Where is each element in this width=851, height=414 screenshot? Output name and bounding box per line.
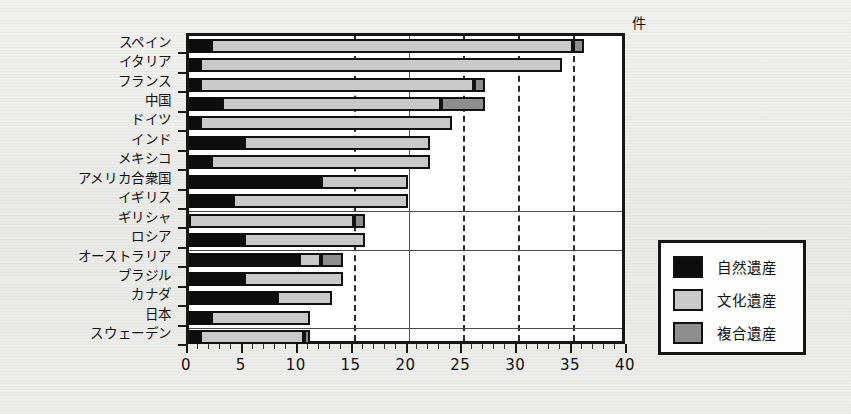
world-heritage-bar-chart: スペインイタリアフランス中国ドイツインドメキシコアメリカ合衆国イギリスギリシャロ…: [0, 0, 851, 414]
plot-inner: [189, 36, 622, 341]
bar-row: [189, 311, 622, 325]
bar-segment-nat: [189, 175, 321, 189]
x-axis-unit-label: 件: [632, 12, 646, 32]
bar-segment-cul: [211, 155, 431, 169]
x-axis-tick-minor: [395, 344, 396, 349]
bar-segment-nat: [189, 291, 277, 305]
bar-row: [189, 194, 622, 208]
bar-segment-cul: [200, 330, 304, 344]
x-axis-tick-label: 5: [236, 356, 246, 374]
x-axis-tick-minor: [219, 344, 220, 349]
x-axis-tick-minor: [482, 344, 483, 349]
legend-item[interactable]: 複合遺産: [661, 316, 803, 349]
y-axis-tick: [178, 344, 186, 346]
x-axis-tick-minor: [230, 344, 231, 349]
x-axis-tick-minor: [493, 344, 494, 349]
y-axis-label: 中国: [145, 94, 172, 108]
x-axis-tick-minor: [471, 344, 472, 349]
x-axis-tick-major: [570, 344, 572, 353]
bar-row: [189, 58, 622, 72]
y-axis-tick: [178, 150, 186, 152]
row-separator: [189, 328, 622, 329]
bar-segment-nat: [189, 311, 211, 325]
bar-segment-cul: [299, 253, 321, 267]
bar-segment-cul: [277, 291, 332, 305]
x-axis-tick-label: 30: [505, 356, 525, 374]
y-axis-tick: [178, 208, 186, 210]
x-axis-tick-major: [186, 344, 188, 353]
x-axis-tick-minor: [373, 344, 374, 349]
legend-label: 複合遺産: [717, 322, 777, 343]
legend-swatch-mix: [673, 322, 703, 344]
y-axis-label: インド: [131, 133, 172, 147]
bar-segment-mix: [304, 330, 309, 344]
y-axis-label: イタリア: [119, 55, 172, 69]
x-axis-tick-minor: [449, 344, 450, 349]
x-axis-tick-minor: [559, 344, 560, 349]
y-axis-label: ブラジル: [118, 269, 172, 283]
bar-segment-cul: [189, 214, 354, 228]
bar-row: [189, 39, 622, 53]
x-axis-tick-label: 15: [341, 356, 361, 374]
bar-row: [189, 97, 622, 111]
bar-row: [189, 291, 622, 305]
legend-item[interactable]: 自然遺産: [661, 250, 803, 283]
bar-segment-cul: [244, 233, 365, 247]
x-axis-tick-label: 35: [560, 356, 580, 374]
bar-segment-cul: [222, 97, 442, 111]
legend-item[interactable]: 文化遺産: [661, 283, 803, 316]
bar-segment-cul: [233, 194, 409, 208]
x-axis-tick-label: 0: [181, 356, 191, 374]
bar-segment-nat: [189, 136, 244, 150]
y-axis-tick: [178, 169, 186, 171]
y-axis-label: アメリカ合衆国: [78, 172, 172, 186]
bar-segment-nat: [189, 253, 299, 267]
x-axis-tick-minor: [614, 344, 615, 349]
bar-segment-nat: [189, 155, 211, 169]
bar-row: [189, 155, 622, 169]
x-axis-tick-minor: [384, 344, 385, 349]
y-axis-label: オーストラリア: [78, 250, 172, 264]
x-axis-tick-minor: [263, 344, 264, 349]
x-axis-tick-minor: [252, 344, 253, 349]
legend-box: 自然遺産文化遺産複合遺産: [658, 240, 806, 355]
bar-segment-cul: [244, 272, 343, 286]
bar-row: [189, 116, 622, 130]
x-axis-tick-minor: [581, 344, 582, 349]
x-axis-tick-label: 40: [615, 356, 635, 374]
x-axis-tick-minor: [362, 344, 363, 349]
y-axis-label: ロシア: [131, 230, 172, 244]
plot-area: [186, 33, 625, 344]
y-axis-tick: [178, 111, 186, 113]
y-axis-label: スペイン: [119, 36, 172, 50]
x-axis-tick-minor: [285, 344, 286, 349]
x-axis-tick-minor: [526, 344, 527, 349]
x-axis-tick-minor: [197, 344, 198, 349]
bar-row: [189, 330, 622, 344]
x-axis-tick-major: [296, 344, 298, 353]
x-axis-tick-minor: [307, 344, 308, 349]
x-axis-tick-major: [406, 344, 408, 353]
bar-segment-mix: [441, 97, 485, 111]
y-axis-tick: [178, 286, 186, 288]
y-axis-tick: [178, 189, 186, 191]
bar-segment-cul: [321, 175, 409, 189]
row-separator: [189, 250, 622, 251]
y-axis-label: スウェーデン: [90, 327, 172, 341]
x-axis-tick-minor: [340, 344, 341, 349]
legend-label: 文化遺産: [717, 289, 777, 310]
y-axis-tick: [178, 305, 186, 307]
bar-segment-cul: [200, 58, 562, 72]
y-axis-label: カナダ: [131, 288, 172, 302]
bar-row: [189, 214, 622, 228]
bar-row: [189, 233, 622, 247]
x-axis-tick-minor: [329, 344, 330, 349]
legend-swatch-cul: [673, 289, 703, 311]
x-axis-tick-major: [625, 344, 627, 353]
bar-segment-nat: [189, 39, 211, 53]
x-axis-tick-minor: [318, 344, 319, 349]
bar-segment-cul: [200, 78, 474, 92]
bar-segment-mix: [573, 39, 584, 53]
bar-segment-cul: [244, 136, 431, 150]
x-axis-tick-label: 25: [450, 356, 470, 374]
